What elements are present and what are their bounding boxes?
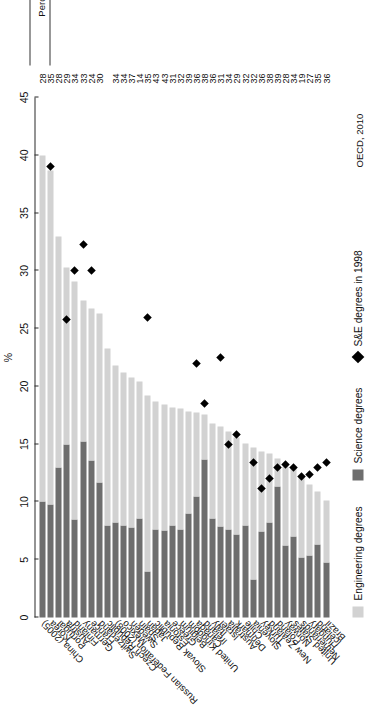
bar-segment-engineering xyxy=(282,466,288,546)
bar-segment-science xyxy=(39,501,45,617)
x-axis-line xyxy=(34,97,35,617)
x-axis-tick-label: 0 xyxy=(17,614,29,620)
bar-segment-engineering xyxy=(169,407,175,525)
bar-row xyxy=(136,97,142,617)
bar-segment-engineering xyxy=(242,443,248,525)
bar-segment-engineering xyxy=(104,348,110,525)
bar-segment-engineering xyxy=(71,281,77,519)
bar-segment-science xyxy=(193,496,199,617)
bar-segment-engineering xyxy=(47,170,53,504)
bar-segment-engineering xyxy=(290,468,296,536)
bar-row xyxy=(112,97,118,617)
bar-segment-science xyxy=(128,527,134,617)
bar-segment-engineering xyxy=(39,155,45,502)
x-axis-tick xyxy=(34,500,38,501)
bar-row xyxy=(274,97,280,617)
bar-segment-engineering xyxy=(177,408,183,529)
legend-item-1998: S&E degrees in 1998 xyxy=(352,250,363,361)
bar-row xyxy=(201,97,207,617)
bar-segment-engineering xyxy=(120,372,126,525)
bar-segment-science xyxy=(71,519,77,617)
bar-row xyxy=(250,97,256,617)
bar-segment-science xyxy=(266,522,272,617)
legend-diamond-icon xyxy=(351,350,364,363)
bar-segment-science xyxy=(144,571,150,617)
bar-segment-engineering xyxy=(112,365,118,522)
source-note: OECD, 2010 xyxy=(353,113,364,167)
bar-row xyxy=(88,97,94,617)
bar-row xyxy=(161,97,167,617)
legend-swatch-science-icon xyxy=(352,469,363,480)
bar-row xyxy=(71,97,77,617)
bar-segment-science xyxy=(242,525,248,617)
bar-segment-engineering xyxy=(233,437,239,534)
bar-segment-science xyxy=(169,525,175,617)
value-header-rule-top xyxy=(29,0,30,65)
legend-label-science: Science degrees xyxy=(352,387,363,463)
bar-segment-engineering xyxy=(88,308,94,459)
legend-label-engineering: Engineering degrees xyxy=(352,506,363,600)
bar-segment-science xyxy=(233,534,239,617)
bar-row xyxy=(258,97,264,617)
bar-segment-engineering xyxy=(136,381,142,517)
x-axis-tick-label: 30 xyxy=(17,265,29,277)
bar-row xyxy=(152,97,158,617)
legend-label-1998: S&E degrees in 1998 xyxy=(352,250,363,346)
bar-segment-science xyxy=(225,529,231,617)
x-axis-tick-label: 45 xyxy=(17,91,29,103)
x-axis-tick xyxy=(34,269,38,270)
bar-row xyxy=(39,97,45,617)
bar-segment-engineering xyxy=(314,491,320,544)
bar-segment-engineering xyxy=(298,475,304,557)
bar-segment-engineering xyxy=(266,453,272,522)
bar-row xyxy=(209,97,215,617)
bar-segment-engineering xyxy=(250,447,256,579)
bar-segment-engineering xyxy=(96,313,102,482)
bar-segment-science xyxy=(290,536,296,617)
bar-segment-science xyxy=(152,529,158,617)
x-axis-tick-label: 15 xyxy=(17,438,29,450)
value-column-header: Percentage of S&E degrees awarded to wom… xyxy=(35,0,46,65)
bar-row xyxy=(144,97,150,617)
bar-row xyxy=(47,97,53,617)
bar-segment-science xyxy=(250,579,256,617)
x-axis-tick xyxy=(34,558,38,559)
x-axis-tick xyxy=(34,443,38,444)
bar-row xyxy=(306,97,312,617)
bar-segment-engineering xyxy=(144,395,150,571)
bar-segment-engineering xyxy=(152,401,158,529)
bar-segment-science xyxy=(282,545,288,617)
value-label: 30 xyxy=(94,73,104,83)
bar-segment-science xyxy=(217,526,223,617)
value-label: 36 xyxy=(321,73,331,83)
bar-segment-engineering xyxy=(201,414,207,459)
bar-segment-science xyxy=(55,467,61,617)
legend-item-science: Science degrees xyxy=(352,387,363,480)
bar-segment-engineering xyxy=(128,377,134,527)
x-axis-tick-label: 10 xyxy=(17,496,29,508)
bar-row xyxy=(96,97,102,617)
x-axis-tick xyxy=(34,327,38,328)
x-axis-tick-label: 5 xyxy=(17,556,29,562)
plot-area: 051015202530354045% xyxy=(34,97,334,617)
bar-row xyxy=(128,97,134,617)
x-axis-tick-label: 20 xyxy=(17,380,29,392)
bar-segment-science xyxy=(80,441,86,617)
x-axis-tick-label: 25 xyxy=(17,322,29,334)
bar-segment-science xyxy=(258,532,264,618)
bar-segment-engineering xyxy=(306,484,312,554)
bar-segment-science xyxy=(209,518,215,617)
bar-segment-science xyxy=(298,557,304,617)
x-axis-tick-label: 40 xyxy=(17,149,29,161)
bar-row xyxy=(120,97,126,617)
bar-row xyxy=(314,97,320,617)
x-axis-tick-label: 35 xyxy=(17,207,29,219)
bar-segment-engineering xyxy=(209,423,215,518)
bar-segment-engineering xyxy=(161,404,167,530)
bar-row xyxy=(266,97,272,617)
bar-segment-engineering xyxy=(185,411,191,513)
bar-segment-science xyxy=(201,459,207,617)
bar-segment-engineering xyxy=(193,412,199,495)
x-axis-tick xyxy=(34,385,38,386)
